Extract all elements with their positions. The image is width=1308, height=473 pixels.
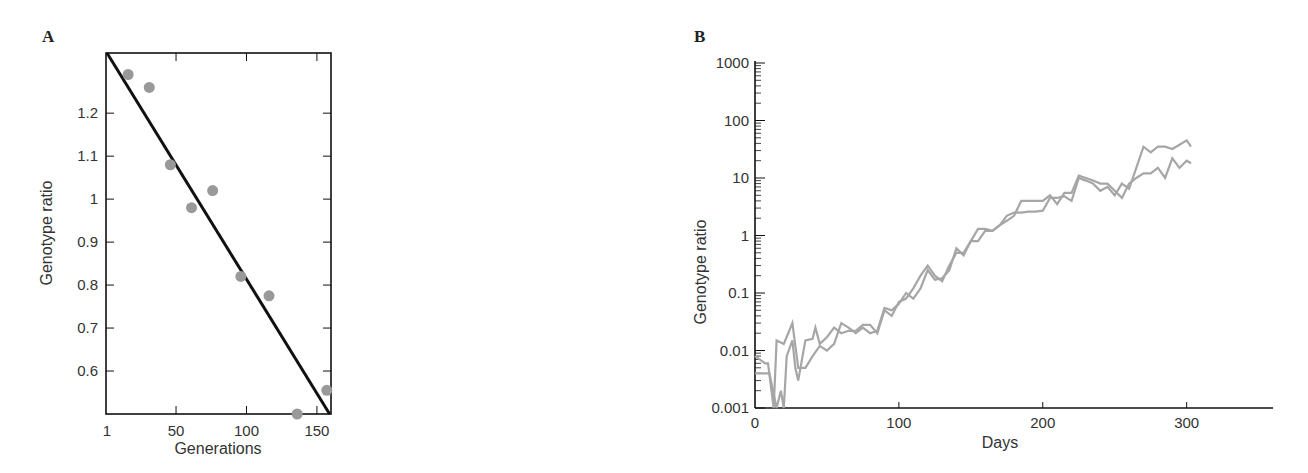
x-tick-label: 150 bbox=[304, 422, 329, 439]
data-point bbox=[235, 271, 246, 282]
data-point bbox=[321, 385, 332, 396]
y-tick-label: 1.2 bbox=[77, 104, 98, 121]
y-tick-label: 0.01 bbox=[720, 342, 749, 359]
y-tick-label: 1 bbox=[741, 227, 749, 244]
x-axis-title: Days bbox=[982, 434, 1018, 451]
data-point bbox=[144, 82, 155, 93]
y-tick-label: 1.1 bbox=[77, 147, 98, 164]
y-tick-label: 0.1 bbox=[728, 284, 749, 301]
y-tick-label: 100 bbox=[724, 112, 749, 129]
x-tick-label: 300 bbox=[1174, 414, 1199, 431]
data-point bbox=[186, 202, 197, 213]
x-tick-label: 0 bbox=[751, 414, 759, 431]
y-tick-label: 1 bbox=[90, 190, 98, 207]
y-tick-label: 0.001 bbox=[711, 399, 749, 416]
series-line-2 bbox=[755, 158, 1191, 408]
y-axis-title: Genotype ratio bbox=[38, 180, 55, 285]
y-axis-title: Genotype ratio bbox=[692, 219, 709, 324]
regression-line bbox=[107, 53, 330, 414]
y-tick-label: 10 bbox=[732, 169, 749, 186]
x-tick-label: 100 bbox=[886, 414, 911, 431]
panel-b-label: B bbox=[694, 27, 705, 46]
x-tick-label: 200 bbox=[1030, 414, 1055, 431]
panel-b: 0.0010.010.111010010000100200300DaysGeno… bbox=[692, 54, 1273, 451]
y-tick-label: 1000 bbox=[716, 54, 749, 71]
data-point bbox=[292, 409, 303, 420]
data-point bbox=[264, 290, 275, 301]
panel-a-label: A bbox=[42, 27, 55, 46]
figure: A 1501001500.60.70.80.911.11.2Generation… bbox=[0, 0, 1308, 473]
y-tick-label: 0.6 bbox=[77, 362, 98, 379]
panel-a: 1501001500.60.70.80.911.11.2GenerationsG… bbox=[38, 53, 332, 457]
x-tick-label: 1 bbox=[103, 422, 111, 439]
y-tick-label: 0.8 bbox=[77, 276, 98, 293]
data-point bbox=[123, 69, 134, 80]
data-point bbox=[165, 159, 176, 170]
x-tick-label: 100 bbox=[234, 422, 259, 439]
x-axis-title: Generations bbox=[174, 440, 261, 457]
series-line-1 bbox=[755, 140, 1191, 408]
data-point bbox=[207, 185, 218, 196]
y-tick-label: 0.7 bbox=[77, 319, 98, 336]
x-tick-label: 50 bbox=[168, 422, 185, 439]
y-tick-label: 0.9 bbox=[77, 233, 98, 250]
